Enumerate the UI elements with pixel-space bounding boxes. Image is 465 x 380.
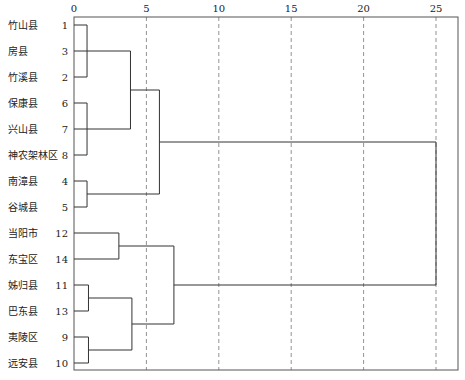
x-tick-label: 5 (143, 3, 149, 14)
dendrogram-chart: 0510152025 竹山县1房县3竹溪县2保康县6兴山县7神农架林区8南漳县4… (0, 0, 465, 380)
leaf-id: 14 (55, 254, 68, 265)
dendrogram-links (74, 25, 436, 363)
leaf-id: 9 (62, 332, 68, 343)
x-tick-label: 0 (71, 3, 77, 14)
leaf-name: 巴东县 (8, 305, 38, 317)
leaf-name: 房县 (8, 45, 28, 57)
leaf-name: 谷城县 (8, 202, 38, 213)
x-tick-label: 20 (357, 3, 370, 14)
leaf-id: 11 (55, 280, 68, 291)
leaf-id: 2 (62, 72, 68, 83)
leaf-id: 3 (62, 46, 68, 57)
leaf-id: 8 (62, 150, 68, 161)
leaf-labels: 竹山县1房县3竹溪县2保康县6兴山县7神农架林区8南漳县4谷城县5当阳市12东宝… (8, 19, 68, 369)
leaf-name: 兴山县 (8, 124, 38, 135)
leaf-name: 远安县 (8, 357, 38, 369)
leaf-name: 姊归县 (8, 279, 38, 291)
leaf-name: 夷陵区 (8, 331, 38, 343)
leaf-id: 10 (55, 358, 68, 369)
leaf-id: 12 (55, 228, 68, 239)
x-tick-label: 15 (285, 3, 298, 14)
leaf-name: 神农架林区 (8, 149, 58, 161)
x-tick-label: 25 (430, 3, 443, 14)
leaf-name: 竹山县 (8, 19, 38, 31)
leaf-id: 1 (62, 20, 68, 31)
leaf-id: 6 (62, 98, 68, 109)
leaf-name: 东宝区 (8, 253, 38, 265)
leaf-id: 7 (62, 124, 68, 135)
x-axis-ticks: 0510152025 (71, 3, 443, 14)
x-tick-label: 10 (212, 3, 225, 14)
leaf-name: 南漳县 (8, 175, 38, 187)
leaf-name: 保康县 (8, 97, 38, 109)
leaf-id: 4 (62, 176, 68, 187)
gridlines (146, 17, 436, 370)
leaf-id: 5 (62, 202, 68, 213)
leaf-name: 竹溪县 (8, 71, 38, 83)
leaf-id: 13 (55, 306, 68, 317)
leaf-name: 当阳市 (8, 227, 38, 239)
